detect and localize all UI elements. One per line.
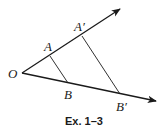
label-b-prime: B′ <box>116 99 127 114</box>
label-a-prime: A′ <box>73 19 85 34</box>
geometry-diagram: O A B A′ B′ Ex. 1–3 <box>0 0 168 132</box>
label-o: O <box>8 66 18 81</box>
segment-a-prime-b-prime <box>82 36 120 94</box>
label-b: B <box>64 87 72 102</box>
lower-ray <box>22 73 156 101</box>
figure-caption: Ex. 1–3 <box>65 115 103 127</box>
upper-ray <box>22 9 120 73</box>
label-a: A <box>43 39 52 54</box>
